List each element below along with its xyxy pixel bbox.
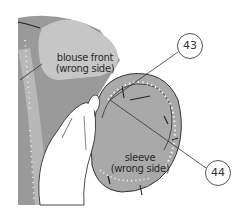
blouse-front-label: blouse front (wrong side) xyxy=(50,52,120,74)
sleeve-shape xyxy=(92,74,182,192)
sleeve-label-line2: (wrong side) xyxy=(110,163,170,174)
callout-43: 43 xyxy=(177,33,203,59)
blouse-front-label-line1: blouse front xyxy=(50,52,120,63)
sewing-diagram: blouse front (wrong side) sleeve (wrong … xyxy=(0,0,250,215)
sleeve-label: sleeve (wrong side) xyxy=(110,152,170,174)
sleeve-label-line1: sleeve xyxy=(110,152,170,163)
callout-44: 44 xyxy=(205,160,231,186)
blouse-front-label-line2: (wrong side) xyxy=(50,63,120,74)
